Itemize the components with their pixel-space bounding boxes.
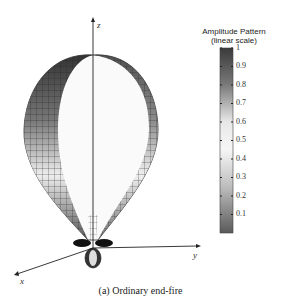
- colorbar-tick: 1: [236, 44, 240, 52]
- main-lobe: [24, 55, 158, 240]
- figure-caption: (a) Ordinary end-fire: [0, 285, 281, 296]
- colorbar-tick: 0.7: [236, 99, 246, 107]
- y-axis-arrow-icon: [196, 244, 201, 248]
- colorbar-tick: 0.9: [236, 62, 246, 70]
- colorbar-tick: 0.8: [236, 81, 246, 89]
- z-axis-arrow-icon: [91, 17, 95, 22]
- colorbar-tick: 0.5: [236, 136, 246, 144]
- x-axis: [17, 248, 93, 274]
- colorbar-tick: 0.4: [236, 155, 246, 163]
- colorbar-title: Amplitude Pattern (linear scale): [186, 27, 281, 45]
- figure: Amplitude Pattern (linear scale) 1 0.9 0…: [0, 0, 281, 306]
- colorbar-tick: 0.6: [236, 118, 246, 126]
- y-axis-label: y: [193, 250, 197, 260]
- x-axis-arrow-icon: [14, 271, 19, 276]
- colorbar: [220, 48, 233, 233]
- colorbar-title-line2: (linear scale): [186, 36, 281, 45]
- colorbar-tick: 0.1: [236, 210, 246, 218]
- colorbar-title-line1: Amplitude Pattern: [186, 27, 281, 36]
- z-axis-label: z: [97, 20, 101, 30]
- colorbar-tick: 0.2: [236, 192, 246, 200]
- colorbar-tick: 0.3: [236, 173, 246, 181]
